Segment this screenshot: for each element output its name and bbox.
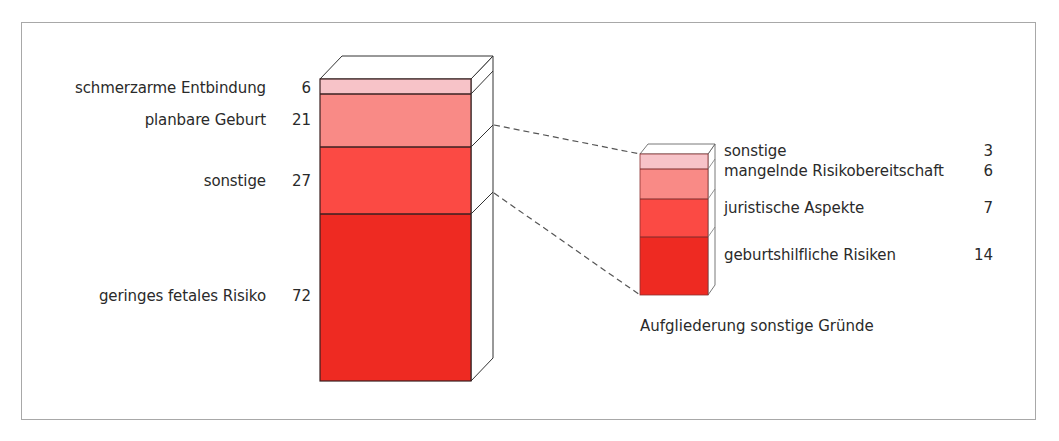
segment-sonstige [320, 147, 471, 214]
detail-caption: Aufgliederung sonstige Gründe [640, 317, 874, 335]
detail-value-juristische-aspekte: 7 [984, 199, 993, 217]
detail-column [640, 144, 715, 295]
main-value-sonstige: 27 [292, 172, 311, 190]
main-value-planbare-geburt: 21 [292, 111, 311, 129]
detail-label-geburtshilfliche-risiken: geburtshilfliche Risiken [724, 246, 896, 264]
detail-column-top-face [640, 144, 715, 154]
detail-label-juristische-aspekte: juristische Aspekte [724, 199, 864, 217]
main-label-schmerzarme-entbindung: schmerzarme Entbindung [75, 79, 266, 97]
detail-value-sonstige: 3 [984, 142, 993, 160]
detail-segment-geburtshilfliche-risiken [640, 237, 708, 295]
main-label-sonstige: sonstige [204, 172, 266, 190]
chart-graphic [0, 0, 1059, 441]
detail-value-geburtshilfliche-risiken: 14 [974, 246, 993, 264]
segment-geringes-fetales-risiko [320, 214, 471, 381]
detail-value-mangelnde-risikobereitschaft: 6 [984, 162, 993, 180]
segment-planbare-geburt [320, 94, 471, 147]
detail-segment-juristische-aspekte [640, 199, 708, 237]
connector-bottom [494, 193, 640, 295]
main-value-geringes-fetales-risiko: 72 [292, 287, 311, 305]
main-column [320, 56, 493, 381]
main-column-side-face [471, 56, 493, 381]
segment-schmerzarme-entbindung [320, 79, 471, 94]
main-column-top-face [320, 56, 493, 79]
main-label-planbare-geburt: planbare Geburt [145, 111, 266, 129]
detail-segment-sonstige [640, 154, 708, 169]
main-label-geringes-fetales-risiko: geringes fetales Risiko [99, 287, 266, 305]
main-value-schmerzarme-entbindung: 6 [302, 79, 311, 97]
detail-column-side-face [708, 144, 715, 295]
connector-top [494, 125, 640, 154]
detail-label-mangelnde-risikobereitschaft: mangelnde Risikobereitschaft [724, 162, 944, 180]
detail-segment-mangelnde-risikobereitschaft [640, 169, 708, 199]
detail-label-sonstige: sonstige [724, 142, 786, 160]
